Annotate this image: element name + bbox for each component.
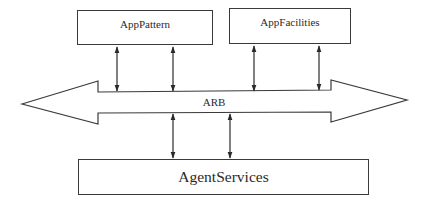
- appfacilities-box: AppFacilities: [229, 8, 351, 44]
- appfacilities-label: AppFacilities: [260, 16, 319, 28]
- arb-label: ARB: [203, 96, 226, 108]
- architecture-diagram: ARB AppPattern AppFacilities AgentServic…: [0, 0, 427, 206]
- agentservices-box: AgentServices: [78, 159, 369, 195]
- apppattern-label: AppPattern: [120, 18, 170, 30]
- agentservices-label: AgentServices: [178, 168, 268, 186]
- apppattern-box: AppPattern: [77, 10, 213, 45]
